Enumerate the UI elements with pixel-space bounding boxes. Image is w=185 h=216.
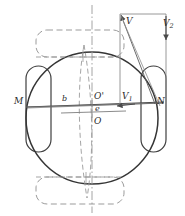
dashed-horizontal-guides xyxy=(36,57,124,177)
label-v2-base: V xyxy=(163,18,170,28)
diagram-canvas xyxy=(0,0,185,216)
label-e: e xyxy=(95,105,100,113)
wheel-center-ticks xyxy=(83,50,86,184)
tilted-plane-dashed-ellipse xyxy=(79,45,91,198)
label-o: O xyxy=(94,117,101,126)
horizontal-centerline xyxy=(61,111,126,113)
label-v2: V2 xyxy=(163,19,174,28)
figure-container: V V2 V1 M N b O' e O xyxy=(0,0,185,216)
label-o-prime: O' xyxy=(94,92,104,101)
label-v1: V1 xyxy=(122,92,133,101)
label-v: V xyxy=(126,17,133,26)
label-v2-sub: 2 xyxy=(170,22,174,30)
label-v1-base: V xyxy=(122,91,129,101)
label-m: M xyxy=(14,97,23,106)
label-n: N xyxy=(157,97,165,106)
label-v1-sub: 1 xyxy=(129,95,133,103)
label-b: b xyxy=(62,95,67,103)
